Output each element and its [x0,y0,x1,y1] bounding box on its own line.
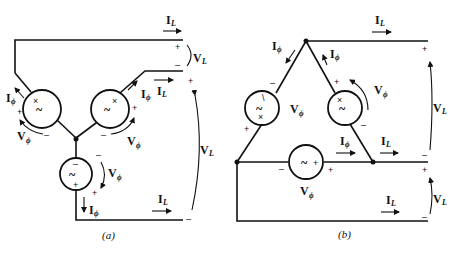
svg-text:V: V [17,129,26,143]
svg-text:ϕ: ϕ [299,109,304,118]
panel-a-wye: ~ × ~ × ~ – + I L + – V L I L + V L [6,13,214,242]
svg-text:L: L [441,107,447,116]
caption-b: (b) [338,228,351,241]
svg-text:–: – [422,212,427,222]
svg-text:+: + [244,124,249,134]
svg-text:+: + [313,158,318,168]
svg-text:ϕ: ϕ [309,191,314,200]
svg-text:+: + [92,188,97,198]
svg-text:–: – [361,120,366,130]
svg-text:–: – [101,130,106,140]
svg-text:×: × [112,96,117,106]
svg-text:+: + [132,103,137,113]
svg-text:+: + [17,107,22,117]
source-b-left: ~ \ × [245,91,279,125]
caption-a: (a) [102,229,115,242]
svg-text:+: + [328,165,333,175]
svg-text:ϕ: ϕ [383,90,388,99]
svg-text:L: L [170,19,176,28]
svg-text:V: V [300,184,309,198]
svg-text:L: L [162,198,168,207]
svg-text:+: + [175,42,180,52]
svg-text:–: – [422,150,427,160]
svg-text:–: – [270,78,275,88]
svg-text:ϕ: ϕ [26,136,31,145]
svg-text:L: L [390,199,396,208]
svg-text:V: V [374,83,383,97]
svg-text:×: × [258,112,263,122]
source-a3: ~ – + [60,158,92,190]
svg-text:ϕ: ϕ [277,45,282,54]
svg-text:V: V [433,101,442,115]
sine-icon: ~ [104,103,111,117]
svg-text:V: V [290,102,299,116]
sine-icon: ~ [301,156,308,170]
svg-text:+: + [73,180,78,190]
svg-text:+: + [334,77,339,87]
svg-text:L: L [385,140,391,149]
svg-text:–: – [44,130,49,140]
source-a1: ~ × [23,90,61,128]
svg-text:+: + [188,76,193,86]
source-a2: ~ × [91,90,129,128]
svg-text:ϕ: ϕ [345,140,350,149]
svg-text:L: L [379,19,385,28]
svg-text:–: – [73,159,78,169]
wire-mid-a [120,71,183,93]
svg-text:V: V [127,134,136,148]
svg-text:ϕ: ϕ [94,209,99,218]
svg-text:–: – [186,214,191,224]
three-phase-connections-diagram: ~ × ~ × ~ – + I L + – V L I L + V L [0,0,454,253]
svg-text:–: – [175,60,180,70]
svg-text:ϕ: ϕ [117,173,122,182]
source-b-right: ~ × [328,91,362,125]
svg-text:+: + [422,165,427,175]
source-b-bottom: ~ + [289,145,323,179]
svg-text:V: V [193,51,202,65]
svg-text:L: L [201,57,207,66]
svg-text:–: – [279,164,284,174]
svg-text:V: V [200,143,209,157]
panel-b-delta: ~ \ × ~ × ~ + I L + V L – + V L – I [235,13,448,241]
svg-text:×: × [337,95,342,105]
svg-text:ϕ: ϕ [11,97,16,106]
svg-text:L: L [441,198,447,207]
svg-text:L: L [208,149,214,158]
wire-top-a [15,40,183,73]
svg-text:ϕ: ϕ [335,53,340,62]
svg-text:×: × [33,96,38,106]
svg-text:L: L [161,90,167,99]
svg-text:+: + [422,44,427,54]
svg-text:ϕ: ϕ [146,93,151,102]
svg-text:–: – [96,150,101,160]
svg-text:ϕ: ϕ [136,141,141,150]
svg-text:V: V [108,166,117,180]
svg-text:V: V [433,192,442,206]
